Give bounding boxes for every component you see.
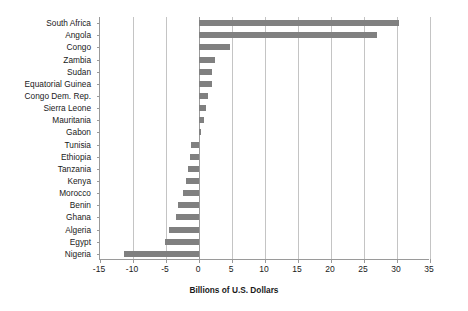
bar <box>199 117 204 123</box>
category-label: Benin <box>70 200 91 210</box>
bar <box>199 69 212 75</box>
category-label: Morocco <box>59 188 91 198</box>
x-tick-0 <box>199 259 200 263</box>
bar <box>199 57 215 63</box>
category-label: Tunisia <box>65 140 91 150</box>
x-tick-25 <box>364 259 365 263</box>
category-tick <box>97 72 100 73</box>
bar <box>199 81 212 87</box>
gridline-35 <box>430 17 431 259</box>
category-tick <box>97 132 100 133</box>
category-tick <box>97 145 100 146</box>
category-label: Zambia <box>63 55 91 65</box>
category-tick <box>97 169 100 170</box>
category-tick <box>97 108 100 109</box>
x-tick-label: -15 <box>93 264 105 274</box>
bar <box>199 129 201 135</box>
bar <box>199 105 206 111</box>
bar <box>183 190 200 196</box>
category-label: South Africa <box>46 18 91 28</box>
bar <box>124 251 199 257</box>
bar <box>190 154 199 160</box>
bar <box>188 166 199 172</box>
category-tick <box>97 193 100 194</box>
x-tick-label: -10 <box>126 264 138 274</box>
plot-area <box>99 17 429 260</box>
category-tick <box>97 60 100 61</box>
category-tick <box>97 230 100 231</box>
bar <box>165 239 199 245</box>
bar <box>199 32 377 38</box>
category-label: Egypt <box>70 237 91 247</box>
category-label: Equatorial Guinea <box>25 79 91 89</box>
x-tick-label: 30 <box>391 264 400 274</box>
bar-series <box>100 17 429 259</box>
bar <box>178 202 199 208</box>
category-axis-labels: South AfricaAngolaCongoZambiaSudanEquato… <box>0 17 95 260</box>
x-tick-label: 35 <box>424 264 433 274</box>
category-tick <box>97 217 100 218</box>
category-label: Nigeria <box>65 249 91 259</box>
x-tick-label: 20 <box>325 264 334 274</box>
bar <box>199 93 208 99</box>
category-label: Angola <box>65 30 91 40</box>
category-tick <box>97 35 100 36</box>
value-axis-labels: -15-10-505101520253035 <box>99 264 429 278</box>
bar <box>199 20 399 26</box>
category-label: Congo Dem. Rep. <box>25 91 91 101</box>
x-tick-20 <box>331 259 332 263</box>
category-label: Kenya <box>67 176 91 186</box>
x-tick-label: -5 <box>161 264 169 274</box>
x-tick-15 <box>298 259 299 263</box>
category-tick <box>97 181 100 182</box>
bar <box>199 44 230 50</box>
bar <box>169 227 199 233</box>
category-tick <box>97 84 100 85</box>
x-tick-label: 25 <box>358 264 367 274</box>
category-tick <box>97 242 100 243</box>
category-label: Algeria <box>65 225 91 235</box>
category-tick <box>97 254 100 255</box>
category-label: Congo <box>67 42 91 52</box>
x-tick--10 <box>133 259 134 263</box>
x-tick-label: 0 <box>196 264 201 274</box>
category-tick <box>97 157 100 158</box>
category-label: Tanzania <box>58 164 91 174</box>
x-tick-35 <box>430 259 431 263</box>
category-tick <box>97 23 100 24</box>
bar-chart: South AfricaAngolaCongoZambiaSudanEquato… <box>0 0 468 311</box>
category-tick <box>97 47 100 48</box>
category-label: Ghana <box>66 212 91 222</box>
bar <box>191 142 199 148</box>
x-tick-label: 10 <box>259 264 268 274</box>
category-label: Sudan <box>67 67 91 77</box>
category-label: Mauritania <box>52 115 91 125</box>
category-tick <box>97 96 100 97</box>
x-tick-10 <box>265 259 266 263</box>
category-tick <box>97 205 100 206</box>
x-tick-5 <box>232 259 233 263</box>
category-label: Ethiopia <box>61 152 91 162</box>
x-tick--5 <box>166 259 167 263</box>
x-tick--15 <box>100 259 101 263</box>
category-label: Sierra Leone <box>43 103 91 113</box>
bar <box>176 214 199 220</box>
x-tick-label: 15 <box>292 264 301 274</box>
x-axis-title: Billions of U.S. Dollars <box>0 285 468 295</box>
category-tick <box>97 120 100 121</box>
x-tick-label: 5 <box>229 264 234 274</box>
x-tick-30 <box>397 259 398 263</box>
category-label: Gabon <box>66 127 91 137</box>
bar <box>186 178 199 184</box>
